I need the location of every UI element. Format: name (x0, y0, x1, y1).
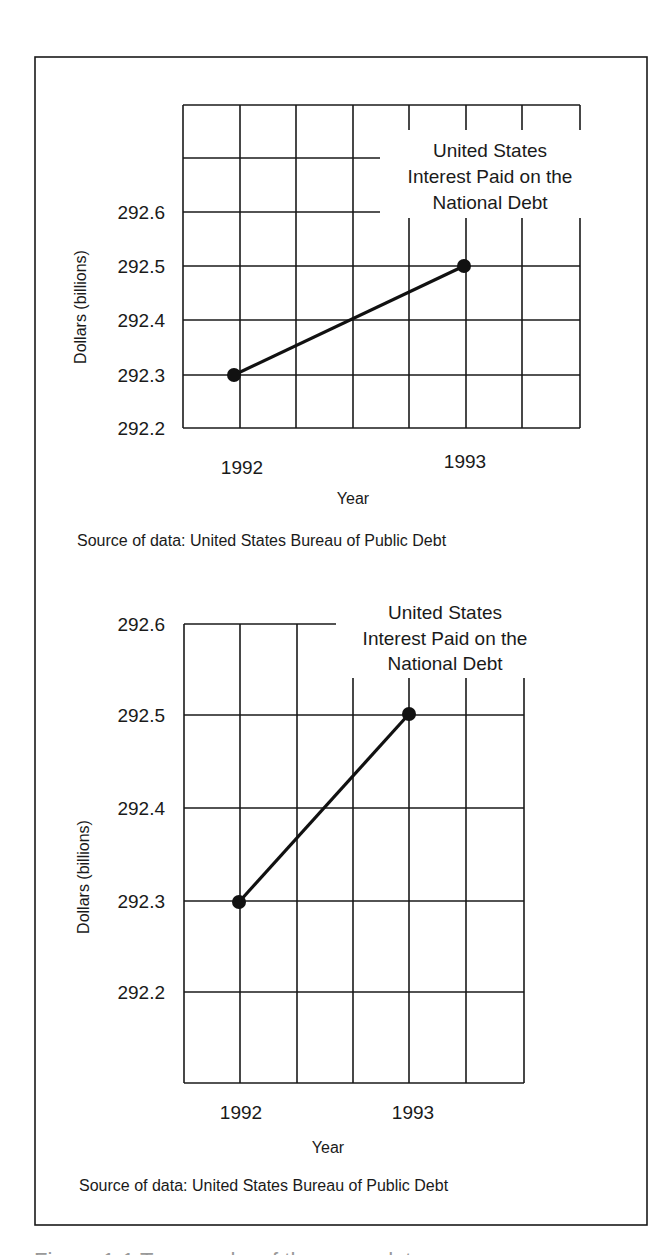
y-tick-label: 292.2 (117, 982, 165, 1003)
y-tick-label: 292.4 (117, 310, 165, 331)
x-tick-label: 1993 (392, 1102, 434, 1123)
y-tick-label: 292.5 (117, 256, 165, 277)
chart-title-line: Interest Paid on the (408, 166, 573, 187)
y-tick-label: 292.5 (117, 705, 165, 726)
data-point-1993 (457, 259, 471, 273)
grid (184, 624, 524, 1083)
chart-title-line: Interest Paid on the (363, 628, 528, 649)
chart-title-line: United States (433, 140, 547, 161)
y-tick-label: 292.6 (117, 202, 165, 223)
y-tick-label: 292.3 (117, 365, 165, 386)
chart-title-line: National Debt (387, 653, 503, 674)
source-note: Source of data: United States Bureau of … (77, 532, 447, 549)
y-tick-label: 292.2 (117, 418, 165, 439)
x-axis-title: Year (337, 490, 370, 507)
chart-bottom: United StatesInterest Paid on theNationa… (75, 596, 536, 1194)
y-axis-title: Dollars (billions) (72, 250, 89, 364)
y-tick-label: 292.4 (117, 798, 165, 819)
y-tick-label: 292.6 (117, 614, 165, 635)
x-tick-label: 1992 (221, 457, 263, 478)
data-point-1993 (402, 707, 416, 721)
chart-top: United StatesInterest Paid on theNationa… (72, 105, 585, 549)
x-axis-title: Year (312, 1139, 345, 1156)
chart-title-line: United States (388, 602, 502, 623)
source-note: Source of data: United States Bureau of … (79, 1177, 449, 1194)
y-axis-title: Dollars (billions) (75, 820, 92, 934)
figure: United StatesInterest Paid on theNationa… (0, 0, 664, 1255)
x-tick-label: 1993 (444, 451, 486, 472)
chart-title-line: National Debt (432, 192, 548, 213)
y-tick-label: 292.3 (117, 891, 165, 912)
data-point-1992 (232, 895, 246, 909)
figure-caption-cut: Figure 1-1 Two graphs of the same data (34, 1246, 454, 1255)
data-point-1992 (227, 368, 241, 382)
x-tick-label: 1992 (220, 1102, 262, 1123)
